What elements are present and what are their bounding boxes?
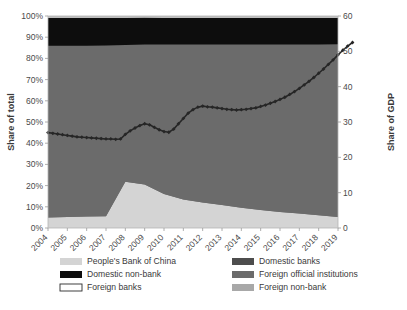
y-tick-label: 30% [26,159,43,169]
legend-swatch [60,271,82,278]
legend-label: People's Bank of China [87,256,176,266]
y2-axis-title: Share of GDP [386,93,396,151]
x-tick-label: 2011 [165,232,185,252]
y-tick-label: 90% [26,32,43,42]
y2-tick-label: 10 [343,188,353,198]
x-tick-label: 2013 [203,232,224,253]
legend-swatch [232,271,254,278]
legend-swatch [232,258,254,265]
legend-swatch [232,284,254,291]
y-tick-label: 70% [26,75,43,85]
y2-tick-label: 30 [343,117,353,127]
x-tick-label: 2014 [222,232,243,253]
y-tick-label: 0% [31,223,44,233]
x-tick-label: 2017 [280,232,301,253]
x-tick-label: 2010 [145,232,166,253]
area-band-1 [48,44,338,217]
y2-tick-label: 60 [343,11,353,21]
y2-tick-label: 50 [343,46,353,56]
y-tick-label: 60% [26,96,43,106]
area-band-2 [48,18,338,46]
legend-label: Foreign non-bank [259,282,327,292]
x-tick-label: 2018 [300,232,321,253]
x-tick-label: 2007 [87,232,108,253]
legend-label: Domestic non-bank [87,269,162,279]
x-tick-label: 2004 [29,232,50,253]
y-tick-label: 100% [21,11,43,21]
y-tick-label: 80% [26,53,43,63]
y2-tick-label: 40 [343,82,353,92]
x-tick-label: 2015 [242,232,263,253]
legend-swatch [60,258,82,265]
y-axis-title: Share of total [6,93,16,151]
y-tick-label: 50% [26,117,43,127]
y2-tick-label: 0 [343,223,348,233]
y-tick-label: 10% [26,202,43,212]
legend-label: Domestic banks [259,256,320,266]
y-tick-label: 40% [26,138,43,148]
x-tick-label: 2005 [48,232,69,253]
x-tick-label: 2006 [68,232,89,253]
legend-label: Foreign banks [87,282,141,292]
x-tick-label: 2008 [106,232,127,253]
y-tick-label: 20% [26,181,43,191]
x-tick-label: 2019 [319,232,340,253]
legend-label: Foreign official institutions [259,269,358,279]
x-tick-label: 2009 [126,232,147,253]
x-tick-label: 2012 [184,232,205,253]
legend-swatch [60,284,82,291]
y2-tick-label: 20 [343,152,353,162]
chart-container: 0%10%20%30%40%50%60%70%80%90%100%0102030… [0,0,407,310]
area-chart: 0%10%20%30%40%50%60%70%80%90%100%0102030… [0,0,407,310]
x-tick-label: 2016 [261,232,282,253]
